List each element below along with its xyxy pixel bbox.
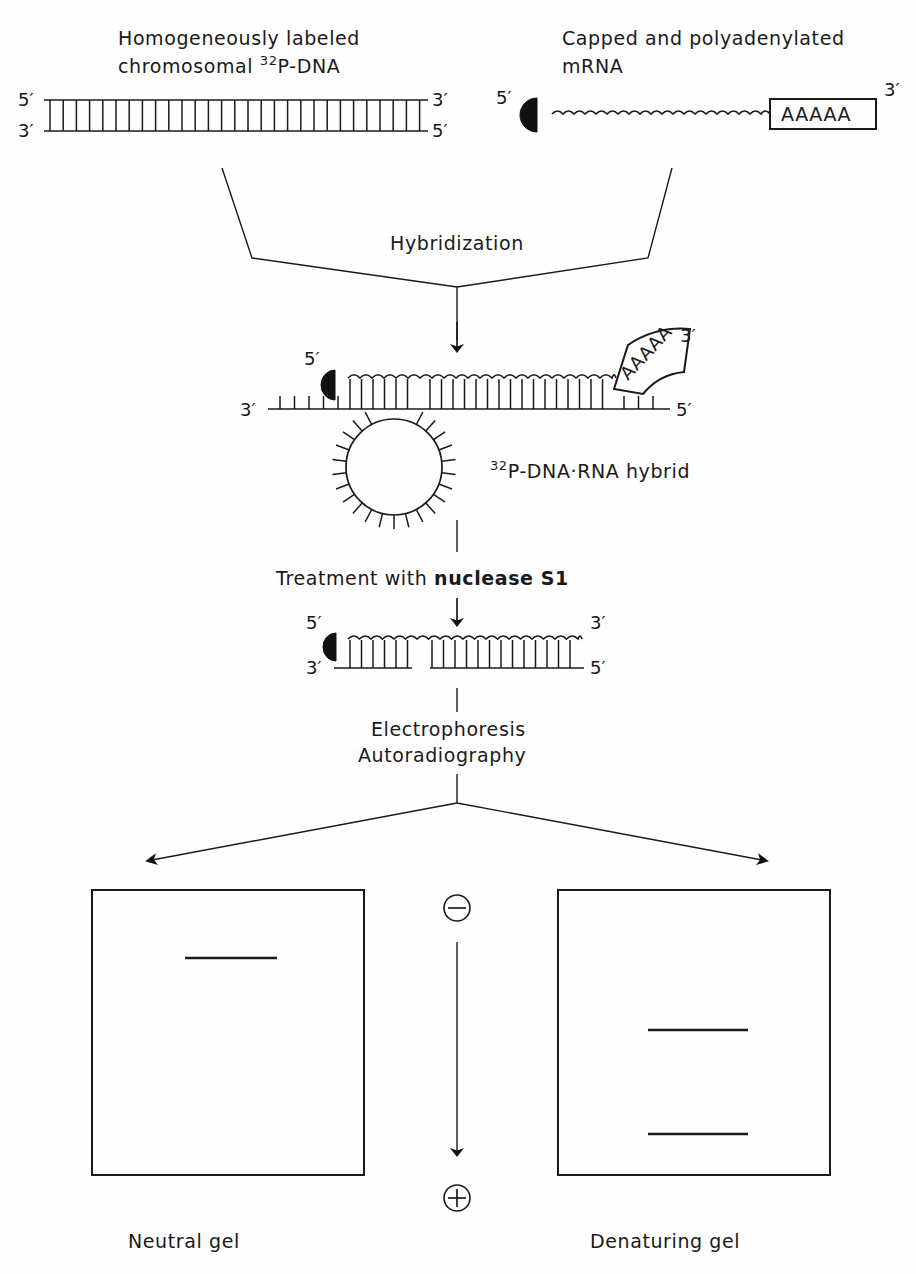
mrna-panel: 5′ 3′ AAAAA (496, 79, 900, 132)
treatment-label: Treatment with nuclease S1 (275, 567, 569, 589)
neutral-gel-label: Neutral gel (128, 1230, 240, 1252)
protected-cap-halfdisc-icon (323, 633, 336, 661)
arrow-branch-left-icon (152, 803, 457, 860)
mrna-cap-halfdisc-icon (520, 98, 537, 132)
hybrid-polya-tail: AAAAA (614, 321, 690, 394)
chromosomal-dna-panel: 5′ 3′ 3′ 5′ (18, 89, 448, 141)
hybrid-dna-3prime-label: 3′ (240, 399, 256, 420)
neutral-gel-panel: Neutral gel (92, 890, 364, 1252)
nuclease-treatment-step: Treatment with nuclease S1 (275, 520, 569, 622)
denaturing-gel-box (558, 890, 830, 1175)
denaturing-gel-panel: Denaturing gel (558, 890, 830, 1252)
dna-duplex-ladder (44, 100, 428, 131)
protected-dna-5prime-label: 5′ (590, 657, 606, 678)
diagram-canvas: 5′ 3′ 3′ 5′ 5′ 3′ AAAAA (0, 0, 916, 1274)
mrna-heading-line1: Capped and polyadenylated (562, 27, 845, 49)
polarity-axis (444, 895, 470, 1211)
dna-left-5prime-label: 5′ (18, 89, 34, 110)
intron-loop (332, 412, 455, 529)
dna-heading-line2: chromosomal 32P-DNA (118, 53, 340, 77)
protected-fragment-panel: 5′ 3′ 3′ 5′ (306, 612, 606, 678)
arrow-branch-right-icon (457, 803, 762, 860)
polya-tail-text: AAAAA (781, 103, 851, 125)
protected-rna-5prime-label: 5′ (306, 612, 322, 633)
dna-heading-line1: Homogeneously labeled (118, 27, 360, 49)
autoradiography-label: Autoradiography (358, 744, 526, 766)
hybrid-label: 32P-DNA·RNA hybrid (490, 458, 690, 482)
dna-right-3prime-label: 3′ (432, 89, 448, 110)
mrna-5prime-label: 5′ (496, 87, 512, 108)
dna-right-5prime-label: 5′ (432, 120, 448, 141)
denaturing-gel-label: Denaturing gel (590, 1230, 740, 1252)
hybrid-dna-5prime-label: 5′ (676, 399, 692, 420)
electrophoresis-label: Electrophoresis (371, 718, 526, 740)
hybrid-cap-halfdisc-icon (321, 370, 335, 400)
hybridization-funnel (222, 168, 672, 348)
dna-left-3prime-label: 3′ (18, 120, 34, 141)
electrophoresis-step: Electrophoresis Autoradiography (152, 688, 762, 860)
mrna-heading-line2: mRNA (562, 55, 623, 77)
neutral-gel-box (92, 890, 364, 1175)
hybrid-rna-5prime-label: 5′ (304, 348, 320, 369)
s1-nuclease-mapping-figure: 5′ 3′ 3′ 5′ 5′ 3′ AAAAA (0, 0, 916, 1274)
mrna-3prime-label: 3′ (884, 79, 900, 100)
protected-dna-3prime-label: 3′ (306, 657, 322, 678)
panel-headings: Homogeneously labeled chromosomal 32P-DN… (118, 27, 845, 254)
dna-rna-hybrid-panel: 5′ 3′ 5′ 3′ AAAAA (240, 321, 696, 529)
protected-rna-3prime-label: 3′ (590, 612, 606, 633)
hybridization-label: Hybridization (390, 232, 524, 254)
